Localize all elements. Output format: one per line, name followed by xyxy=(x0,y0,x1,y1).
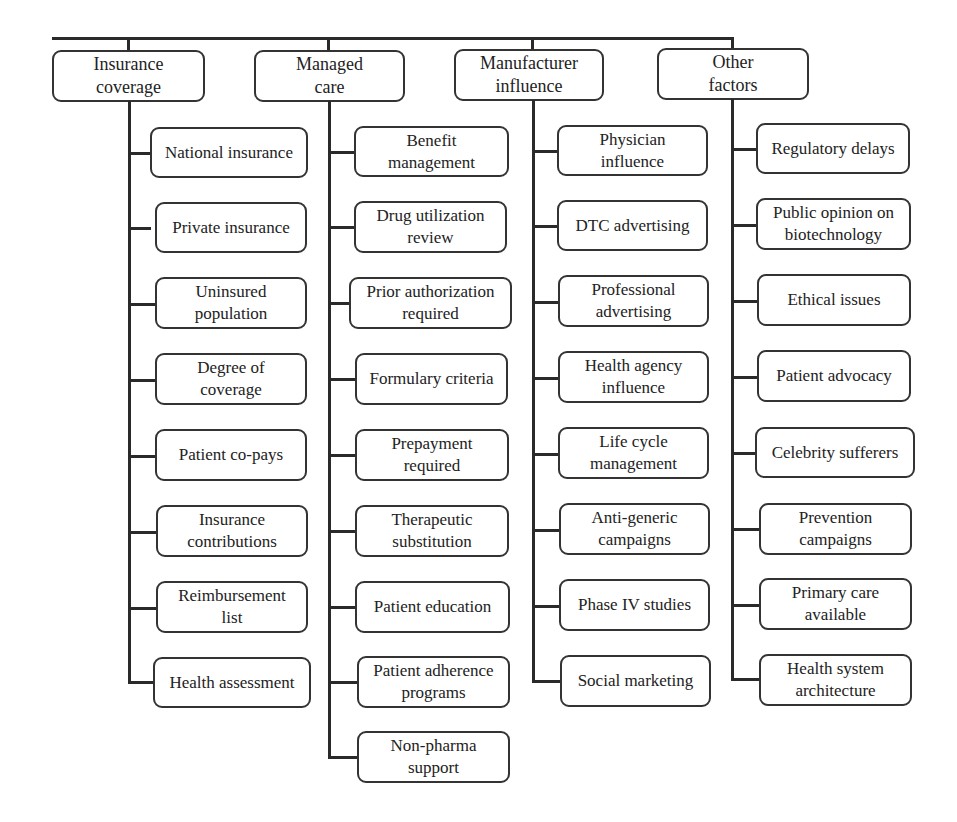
category-managed-care: Managed care xyxy=(254,50,405,102)
connector xyxy=(734,604,760,607)
node-primary-care-available: Primary care available xyxy=(759,578,912,630)
connector xyxy=(328,302,350,305)
connector xyxy=(128,531,156,534)
top-connector-bar xyxy=(52,37,734,40)
connector xyxy=(532,680,560,683)
node-dtc-advertising: DTC advertising xyxy=(557,200,708,251)
connector xyxy=(532,453,559,456)
node-benefit-management: Benefit management xyxy=(354,126,509,177)
connector xyxy=(128,681,154,684)
node-non-pharma-support: Non-pharma support xyxy=(357,731,510,783)
connector xyxy=(328,454,356,457)
column-stem xyxy=(532,100,535,683)
connector xyxy=(128,379,156,382)
connector xyxy=(328,530,356,533)
connector xyxy=(731,300,758,303)
node-life-cycle-management: Life cycle management xyxy=(558,427,709,479)
connector xyxy=(734,452,756,455)
connector xyxy=(532,377,559,380)
connector xyxy=(731,376,758,379)
connector xyxy=(532,529,559,532)
connector xyxy=(328,756,358,759)
node-celebrity-sufferers: Celebrity sufferers xyxy=(755,427,915,478)
connector xyxy=(532,605,560,608)
node-prepayment-required: Prepayment required xyxy=(355,429,509,481)
connector xyxy=(328,226,355,229)
connector xyxy=(128,303,156,306)
node-therapeutic-substitution: Therapeutic substitution xyxy=(355,505,509,557)
node-patient-co-pays: Patient co-pays xyxy=(155,429,307,481)
node-degree-of-coverage: Degree of coverage xyxy=(155,353,307,405)
node-ethical-issues: Ethical issues xyxy=(757,274,911,326)
connector xyxy=(328,681,358,684)
node-phase-iv-studies: Phase IV studies xyxy=(559,579,710,631)
node-public-opinion-on-biotechnology: Public opinion on biotechnology xyxy=(756,198,911,250)
column-stem xyxy=(731,99,734,681)
node-anti-generic-campaigns: Anti-generic campaigns xyxy=(559,503,710,555)
category-manufacturer-influence: Manufacturer influence xyxy=(454,49,604,101)
category-other-factors: Other factors xyxy=(657,48,809,100)
connector xyxy=(532,301,559,304)
node-national-insurance: National insurance xyxy=(150,127,308,178)
node-patient-adherence-programs: Patient adherence programs xyxy=(357,656,510,708)
connector xyxy=(532,150,558,153)
node-drug-utilization-review: Drug utilization review xyxy=(354,201,507,253)
node-health-assessment: Health assessment xyxy=(153,657,311,708)
node-formulary-criteria: Formulary criteria xyxy=(355,353,508,405)
connector xyxy=(731,224,757,227)
node-health-agency-influence: Health agency influence xyxy=(558,351,709,403)
node-uninsured-population: Uninsured population xyxy=(155,277,307,329)
node-private-insurance: Private insurance xyxy=(155,202,307,253)
node-regulatory-delays: Regulatory delays xyxy=(756,123,910,174)
connector xyxy=(128,227,151,230)
connector xyxy=(734,528,760,531)
node-patient-education: Patient education xyxy=(355,581,510,633)
column-stem xyxy=(328,101,331,759)
node-health-system-architecture: Health system architecture xyxy=(759,654,912,706)
category-insurance-coverage: Insurance coverage xyxy=(52,50,205,102)
node-prevention-campaigns: Prevention campaigns xyxy=(759,503,912,555)
connector xyxy=(128,607,157,610)
node-physician-influence: Physician influence xyxy=(557,125,708,176)
node-prior-authorization-required: Prior authorization required xyxy=(349,277,512,329)
column-stem xyxy=(128,101,131,683)
connector xyxy=(532,225,558,228)
connector xyxy=(731,148,757,151)
connector xyxy=(328,606,356,609)
node-patient-advocacy: Patient advocacy xyxy=(757,350,911,402)
connector xyxy=(128,455,156,458)
connector xyxy=(128,152,151,155)
node-reimbursement-list: Reimbursement list xyxy=(156,581,308,633)
node-social-marketing: Social marketing xyxy=(560,655,711,707)
connector xyxy=(731,678,760,681)
node-insurance-contributions: Insurance contributions xyxy=(156,505,308,557)
connector xyxy=(328,378,356,381)
connector xyxy=(328,151,355,154)
node-professional-advertising: Professional advertising xyxy=(558,275,709,327)
